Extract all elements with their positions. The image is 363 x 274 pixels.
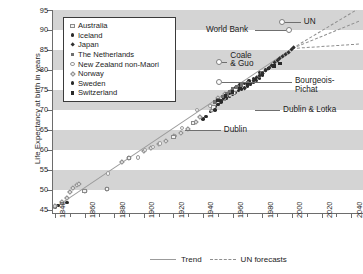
x-tick-label: 1960 (236, 202, 245, 218)
x-tick-major (262, 214, 263, 218)
x-tick-minor (277, 214, 278, 217)
legend-item-label: Iceland (78, 31, 103, 40)
x-tick-major (55, 214, 56, 218)
y-tick-label: 80 (26, 65, 48, 74)
x-tick-label: 1940 (206, 202, 215, 218)
data-point (127, 156, 131, 160)
data-point (136, 155, 140, 159)
data-point (216, 99, 219, 102)
open-square-icon (67, 24, 78, 28)
forecast-line-swatch (210, 259, 236, 260)
x-tick-major (114, 214, 115, 218)
background-band (52, 170, 363, 190)
leader-line-dublin-lotka (255, 110, 280, 111)
x-tick-minor (218, 214, 219, 217)
legend-un-forecasts: UN forecasts (210, 255, 287, 264)
x-tick-label: 1860 (88, 202, 97, 218)
annotation-coale-guo-2: & Guo (230, 59, 253, 68)
y-tick-label: 90 (26, 25, 48, 34)
y-axis-line (52, 10, 53, 214)
ceiling-marker-world-bank (286, 27, 292, 33)
legend-item-label: The Netherlands (78, 50, 134, 59)
y-tick-label: 55 (26, 165, 48, 174)
y-tick-label: 65 (26, 125, 48, 134)
open-circle-icon (67, 62, 78, 66)
data-point (106, 171, 110, 175)
background-band (52, 130, 363, 150)
x-tick-major (322, 214, 323, 218)
x-tick-major (173, 214, 174, 218)
data-point (151, 145, 155, 149)
legend-item-label: Japan (78, 40, 99, 49)
x-tick-label: 1980 (266, 202, 275, 218)
x-tick-label: 1880 (118, 202, 127, 218)
x-tick-minor (307, 214, 308, 217)
data-point (171, 135, 175, 139)
filled-square-gray-icon (67, 53, 78, 57)
y-tick-label: 70 (26, 105, 48, 114)
x-tick-minor (336, 214, 337, 217)
annotation-dublin: Dublin (224, 125, 247, 134)
series-legend: AustraliaIcelandJapanThe NetherlandsNew … (63, 17, 176, 102)
x-tick-major (144, 214, 145, 218)
legend-item-sweden[interactable]: Sweden (67, 79, 171, 89)
legend-item-norway[interactable]: Norway (67, 69, 171, 79)
filled-square-icon (67, 91, 78, 95)
x-tick-minor (70, 214, 71, 217)
legend-item-new-zealand-non-maori[interactable]: New Zealand non-Maori (67, 59, 171, 69)
y-tick-label: 50 (26, 185, 48, 194)
x-tick-minor (247, 214, 248, 217)
x-tick-major (203, 214, 204, 218)
annotation-world-bank: World Bank (206, 25, 248, 34)
leader-line-coale-guo (222, 62, 226, 63)
legend-item-label: Sweden (78, 79, 105, 88)
x-tick-label: 1840 (58, 202, 67, 218)
trend-line-swatch (150, 259, 176, 260)
x-tick-label: 1920 (177, 202, 186, 218)
x-tick-major (85, 214, 86, 218)
trend-label: Trend (181, 255, 202, 264)
legend-item-switzerland[interactable]: Switzerland (67, 88, 171, 98)
x-tick-minor (159, 214, 160, 217)
legend-item-the-netherlands[interactable]: The Netherlands (67, 50, 171, 60)
x-tick-label: 1900 (147, 202, 156, 218)
x-tick-major (351, 214, 352, 218)
data-point (82, 189, 86, 193)
legend-item-label: New Zealand non-Maori (78, 60, 159, 69)
x-tick-label: 2040 (355, 202, 363, 218)
forecast-label: UN forecasts (241, 255, 287, 264)
filled-circle-icon (67, 33, 78, 37)
x-tick-minor (99, 214, 100, 217)
data-point (143, 148, 147, 152)
x-tick-minor (129, 214, 130, 217)
data-point (224, 94, 227, 97)
line-legend: Trend UN forecasts (150, 255, 287, 264)
legend-item-iceland[interactable]: Iceland (67, 31, 171, 41)
leader-line-world-bank (255, 30, 286, 31)
legend-item-label: Norway (78, 69, 104, 78)
data-point (231, 90, 234, 93)
y-tick-label: 95 (26, 6, 48, 15)
x-tick-major (233, 214, 234, 218)
data-point (278, 62, 281, 65)
y-tick-label: 45 (26, 205, 48, 214)
data-point (105, 187, 109, 191)
open-diamond-icon (67, 72, 78, 76)
legend-item-japan[interactable]: Japan (67, 40, 171, 50)
x-tick-major (292, 214, 293, 218)
filled-diamond-icon (67, 43, 78, 46)
annotation-un: UN (304, 17, 316, 26)
chart-root: Life Expectancy at birth in years 455055… (0, 0, 363, 274)
legend-item-label: Switzerland (78, 88, 117, 97)
data-point (191, 121, 195, 125)
leader-line-dublin (185, 130, 221, 131)
legend-item-australia[interactable]: Australia (67, 21, 171, 31)
annotation-dublin-lotka: Dublin & Lotka (283, 105, 336, 114)
annotation-bourgeois-pichat: Bourgeois-Pichat (295, 76, 355, 95)
data-point (158, 141, 162, 145)
data-point (213, 108, 216, 111)
x-tick-label: 2020 (325, 202, 334, 218)
x-tick-minor (188, 214, 189, 217)
legend-trend: Trend (150, 255, 202, 264)
filled-circle-icon (67, 81, 78, 85)
